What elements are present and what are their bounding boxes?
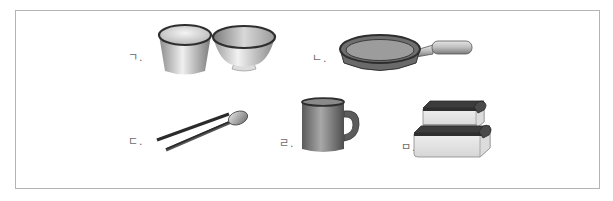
mug-icon [300, 97, 362, 155]
chopsticks-spoon-icon [154, 108, 249, 153]
cup-icon [156, 22, 214, 78]
food-containers-icon [412, 98, 494, 160]
label-digeut: ㄷ. [128, 136, 144, 148]
frying-pan-icon [338, 32, 473, 76]
label-nieun: ㄴ. [312, 53, 328, 65]
label-rieul: ㄹ. [279, 138, 295, 150]
label-giyeok: ㄱ. [128, 52, 144, 64]
bowl-icon [210, 23, 278, 75]
